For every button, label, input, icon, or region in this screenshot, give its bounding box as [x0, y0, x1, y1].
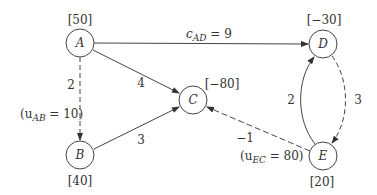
- cost-label-e-c: −1: [236, 131, 254, 145]
- supply-d: [−30]: [307, 13, 342, 27]
- cost-label-e-d: 2: [287, 93, 295, 107]
- supply-e: [20]: [310, 175, 335, 189]
- capacity-label-a-b: (uAB = 10): [20, 107, 83, 123]
- network-diagram: A B C D E [50] [40] [−80] [−30] [20] cAD…: [0, 0, 377, 195]
- edge-e-d: [301, 57, 315, 144]
- node-e: E: [309, 142, 337, 170]
- node-c: C: [179, 86, 207, 114]
- edge-e-c: [207, 107, 310, 151]
- supply-c: [−80]: [205, 77, 240, 91]
- cost-label-d-e: 3: [354, 93, 362, 107]
- supply-b: [40]: [68, 174, 93, 188]
- cost-label-a-c: 4: [137, 76, 145, 90]
- edge-a-c: [93, 50, 179, 93]
- node-b-label: B: [75, 148, 85, 162]
- node-a: A: [66, 29, 94, 57]
- cost-label-b-c: 3: [137, 133, 145, 147]
- cost-label-a-b: 2: [67, 78, 75, 92]
- edge-d-e: [332, 56, 346, 143]
- edge-a-d: [94, 43, 308, 44]
- node-d-label: D: [317, 37, 328, 51]
- node-c-label: C: [188, 93, 197, 107]
- node-e-label: E: [318, 149, 328, 163]
- cost-label-a-d: cAD = 9: [186, 27, 232, 43]
- capacity-label-e-c: (uEC = 80): [240, 149, 304, 165]
- node-b: B: [66, 141, 94, 169]
- node-a-label: A: [75, 36, 85, 50]
- node-d: D: [309, 30, 337, 58]
- supply-a: [50]: [68, 13, 93, 27]
